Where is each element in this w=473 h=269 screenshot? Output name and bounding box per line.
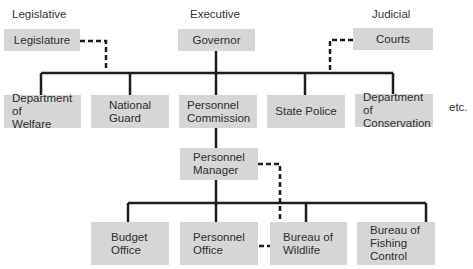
node-courts: Courts <box>353 28 433 50</box>
node-label: State Police <box>275 105 336 118</box>
node-label: Personnel Commission <box>187 99 250 125</box>
node-label: Courts <box>376 33 410 46</box>
branch-header-judicial: Judicial <box>372 8 410 20</box>
node-department-of-conservation: Department of Conservation <box>355 94 433 127</box>
node-label: Personnel Office <box>193 231 245 257</box>
node-label: Legislature <box>14 34 70 47</box>
node-label: National Guard <box>109 99 151 125</box>
branch-header-legislative: Legislative <box>12 8 66 20</box>
node-national-guard: National Guard <box>91 95 169 128</box>
node-bureau-of-fishing-control: Bureau of Fishing Control <box>357 222 435 265</box>
node-bureau-of-wildlife: Bureau of Wildlife <box>270 222 347 265</box>
etc-label: etc. <box>449 101 468 113</box>
node-personnel-commission: Personnel Commission <box>179 95 257 128</box>
node-budget-office: Budget Office <box>91 222 169 265</box>
node-department-of-welfare: Department of Welfare <box>4 95 81 128</box>
node-personnel-office: Personnel Office <box>180 222 258 265</box>
node-legislature: Legislature <box>4 29 80 51</box>
branch-header-executive: Executive <box>190 8 240 20</box>
node-label: Bureau of Wildlife <box>283 231 333 257</box>
node-label: Governor <box>193 34 241 47</box>
node-label: Personnel Manager <box>193 151 245 177</box>
node-label: Department of Welfare <box>12 92 81 131</box>
node-label: Budget Office <box>111 231 147 257</box>
node-label: Bureau of Fishing Control <box>370 224 420 263</box>
node-label: Department of Conservation <box>363 91 433 130</box>
node-governor: Governor <box>178 29 255 51</box>
node-personnel-manager: Personnel Manager <box>180 148 258 180</box>
node-state-police: State Police <box>267 95 345 128</box>
